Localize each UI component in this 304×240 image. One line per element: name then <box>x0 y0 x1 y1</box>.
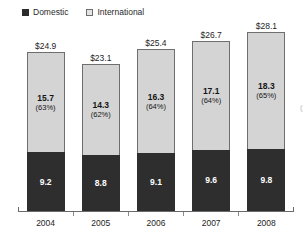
bar-segment-domestic-2004[interactable]: 9.2 <box>27 152 65 211</box>
bar-total-label-2005: $23.1 <box>70 53 132 63</box>
segment-value-domestic-2004: 9.2 <box>40 177 52 187</box>
bar-series-container: $24.9 15.7 (63%) 9.2 $23.1 14.3 (62%) 8.… <box>18 20 294 211</box>
segment-percent-international-2007: (64%) <box>201 96 221 105</box>
stacked-bar-chart: Domestic International $24.9 15.7 (63%) … <box>0 0 304 240</box>
segment-value-international-2007: 17.1 <box>203 86 220 96</box>
x-axis-label-2004: 2004 <box>27 218 65 229</box>
x-axis-right-cap <box>293 207 294 212</box>
bar-total-label-2004: $24.9 <box>15 41 77 51</box>
x-axis-label-2007: 2007 <box>192 218 230 229</box>
bar-segment-international-2007[interactable]: 17.1 (64%) <box>192 41 230 150</box>
legend-swatch-domestic-icon <box>22 9 29 16</box>
segment-value-domestic-2008: 9.8 <box>260 175 272 185</box>
bar-segment-domestic-2005[interactable]: 8.8 <box>82 155 120 211</box>
segment-value-domestic-2007: 9.6 <box>205 175 217 185</box>
segment-percent-international-2006: (64%) <box>146 102 166 111</box>
segment-percent-international-2008: (65%) <box>256 91 276 100</box>
bar-group-2006[interactable]: $25.4 16.3 (64%) 9.1 <box>137 49 175 211</box>
bar-group-2005[interactable]: $23.1 14.3 (62%) 8.8 <box>82 64 120 211</box>
edge-artifact-mark: ( <box>300 104 303 111</box>
x-axis-label-2008: 2008 <box>247 218 285 229</box>
x-axis-tick-1 <box>73 212 74 216</box>
plot-area: $24.9 15.7 (63%) 9.2 $23.1 14.3 (62%) 8.… <box>18 20 294 212</box>
legend-swatch-international-icon <box>86 9 93 16</box>
legend-label-domestic: Domestic <box>33 7 68 17</box>
bar-group-2008[interactable]: $28.1 18.3 (65%) 9.8 <box>247 32 285 211</box>
segment-value-international-2004: 15.7 <box>37 93 54 103</box>
bar-segment-domestic-2007[interactable]: 9.6 <box>192 150 230 211</box>
bar-total-label-2008: $28.1 <box>235 21 297 31</box>
segment-value-international-2008: 18.3 <box>258 81 275 91</box>
chart-legend: Domestic International <box>0 4 304 20</box>
bar-segment-domestic-2006[interactable]: 9.1 <box>137 153 175 211</box>
x-axis-tick-4 <box>238 212 239 216</box>
segment-percent-international-2004: (63%) <box>36 103 56 112</box>
legend-item-domestic[interactable]: Domestic <box>22 7 68 17</box>
bar-segment-international-2004[interactable]: 15.7 (63%) <box>27 52 65 152</box>
segment-value-international-2006: 16.3 <box>148 92 165 102</box>
segment-value-domestic-2005: 8.8 <box>95 178 107 188</box>
x-axis-label-2005: 2005 <box>82 218 120 229</box>
bar-total-label-2007: $26.7 <box>180 30 242 40</box>
segment-value-domestic-2006: 9.1 <box>150 177 162 187</box>
bar-segment-international-2008[interactable]: 18.3 (65%) <box>247 32 285 149</box>
x-axis-tick-2 <box>128 212 129 216</box>
bar-segment-international-2005[interactable]: 14.3 (62%) <box>82 64 120 155</box>
bar-total-label-2006: $25.4 <box>125 38 187 48</box>
x-axis-tick-3 <box>183 212 184 216</box>
bar-segment-international-2006[interactable]: 16.3 (64%) <box>137 49 175 153</box>
segment-percent-international-2005: (62%) <box>91 110 111 119</box>
x-axis-left-cap <box>18 207 19 212</box>
x-axis-label-2006: 2006 <box>137 218 175 229</box>
segment-value-international-2005: 14.3 <box>93 100 110 110</box>
x-axis-line <box>18 211 294 212</box>
legend-label-international: International <box>97 7 144 17</box>
bar-group-2007[interactable]: $26.7 17.1 (64%) 9.6 <box>192 41 230 211</box>
bar-group-2004[interactable]: $24.9 15.7 (63%) 9.2 <box>27 52 65 211</box>
x-axis-category-labels: 2004 2005 2006 2007 2008 <box>18 218 294 232</box>
legend-item-international[interactable]: International <box>86 7 144 17</box>
bar-segment-domestic-2008[interactable]: 9.8 <box>247 149 285 211</box>
